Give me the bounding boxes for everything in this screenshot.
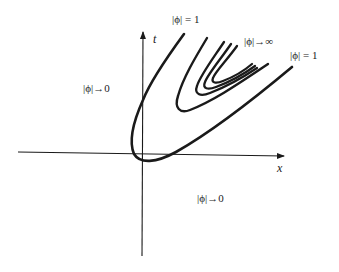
lower-right-level-curve [168,67,293,161]
right-curve-layer [0,0,339,272]
label-phi-to-zero-bottom: |ϕ|→0 [197,193,224,204]
label-phi-to-infinity: |ϕ|→∞ [244,36,273,47]
t-axis-label: t [153,33,156,45]
label-phi-equals-one-right: |ϕ| = 1 [290,50,317,61]
label-phi-to-zero-left: |ϕ|→0 [83,83,110,94]
label-phi-equals-one-top: |ϕ| = 1 [172,14,199,25]
x-axis-label: x [277,162,282,174]
